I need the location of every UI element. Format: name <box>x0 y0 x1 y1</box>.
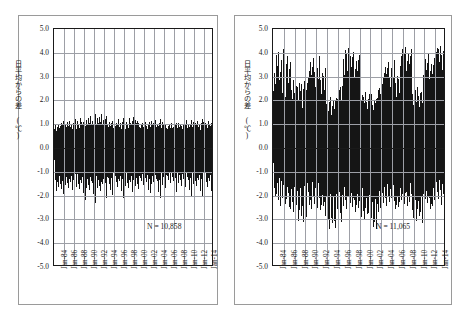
x-axis-tick-label: Jan-02 <box>151 250 159 269</box>
gridline-vertical <box>370 29 371 265</box>
x-axis-tick-label: Jan-08 <box>410 250 418 269</box>
gridline-horizontal <box>54 100 212 101</box>
bar <box>444 148 445 164</box>
gridline-vertical <box>316 29 317 265</box>
x-axis-tick-label: Jan-98 <box>356 250 364 269</box>
bar <box>212 130 213 148</box>
x-axis-tick-label: Jan-12 <box>201 250 209 269</box>
plot-area-left <box>53 28 213 266</box>
bar <box>444 148 445 202</box>
gridline-vertical <box>184 29 185 265</box>
bar <box>212 118 213 148</box>
x-axis-tick-label: Jan-94 <box>111 250 119 269</box>
x-axis-tick-label: Jan-04 <box>388 250 396 269</box>
gridline-vertical <box>144 29 145 265</box>
bar <box>213 148 214 198</box>
x-axis-tick-label: Jan-96 <box>121 250 129 269</box>
x-axis-tick-label: Jan-10 <box>421 250 429 269</box>
bar <box>444 50 445 148</box>
y-axis-title-left: 日平均からの差 (℃) <box>8 60 22 140</box>
x-axis-tick-label: Jan-86 <box>291 250 299 269</box>
y-axis-tick-label: 1.0 <box>244 119 268 128</box>
gridline-horizontal <box>273 77 444 78</box>
gridline-horizontal <box>273 219 444 220</box>
y-axis-tick-label: 5.0 <box>244 24 268 33</box>
x-axis-tick-label: Jan-04 <box>161 250 169 269</box>
y-axis-tick-label: -5.0 <box>244 262 268 271</box>
gridline-vertical <box>305 29 306 265</box>
sample-size-annotation-left: N = 10,858 <box>147 222 181 231</box>
x-axis-tick-label: Jan-08 <box>181 250 189 269</box>
bar-series-right <box>273 29 444 265</box>
y-axis-tick-label: -3.0 <box>25 214 49 223</box>
gridline-vertical <box>338 29 339 265</box>
gridline-vertical <box>360 29 361 265</box>
x-axis-tick-label: Jan-92 <box>101 250 109 269</box>
gridline-vertical <box>414 29 415 265</box>
gridline-horizontal <box>273 53 444 54</box>
gridline-vertical <box>74 29 75 265</box>
figure-container: 日平均からの差 (℃) 5.04.03.02.01.00.0-1.0-2.0-3… <box>0 0 465 320</box>
x-axis-tick-label: Jan-86 <box>71 250 79 269</box>
gridline-horizontal <box>54 243 212 244</box>
y-axis-tick-label: -2.0 <box>25 190 49 199</box>
plot-area-right <box>272 28 445 266</box>
y-axis-tick-label: 2.0 <box>244 95 268 104</box>
gridline-vertical <box>424 29 425 265</box>
gridline-horizontal <box>54 196 212 197</box>
y-axis-tick-label: 4.0 <box>244 47 268 56</box>
gridline-vertical <box>327 29 328 265</box>
bar-series-left <box>54 29 212 265</box>
zero-line <box>273 148 444 149</box>
y-axis-tick-label: 4.0 <box>25 47 49 56</box>
gridline-horizontal <box>54 53 212 54</box>
gridline-horizontal <box>54 219 212 220</box>
zero-line <box>54 148 212 149</box>
x-axis-tick-label: Jan-92 <box>323 250 331 269</box>
gridline-vertical <box>435 29 436 265</box>
gridline-vertical <box>194 29 195 265</box>
gridline-horizontal <box>54 172 212 173</box>
x-axis-tick-label: Jan-12 <box>431 250 439 269</box>
x-axis-tick-label: Jan-84 <box>61 250 69 269</box>
gridline-vertical <box>94 29 95 265</box>
gridline-horizontal <box>273 124 444 125</box>
x-axis-tick-label: Jan-90 <box>91 250 99 269</box>
gridline-vertical <box>124 29 125 265</box>
gridline-horizontal <box>54 77 212 78</box>
gridline-vertical <box>64 29 65 265</box>
x-axis-tick-label: Jan-10 <box>191 250 199 269</box>
sample-size-annotation-right: N = 11,065 <box>376 222 410 231</box>
y-axis-tick-label: 1.0 <box>25 119 49 128</box>
bar <box>212 148 213 159</box>
y-axis-tick-label: -4.0 <box>25 238 49 247</box>
gridline-horizontal <box>273 196 444 197</box>
y-axis-tick-label: 0.0 <box>25 143 49 152</box>
gridline-vertical <box>349 29 350 265</box>
x-axis-tick-label: Jan-90 <box>312 250 320 269</box>
y-axis-tick-label: 3.0 <box>244 71 268 80</box>
gridline-horizontal <box>273 100 444 101</box>
x-axis-tick-label: Jan-00 <box>141 250 149 269</box>
gridline-horizontal <box>54 124 212 125</box>
gridline-vertical <box>84 29 85 265</box>
x-axis-tick-label: Jan-14 <box>211 250 219 269</box>
y-axis-tick-label: 0.0 <box>244 143 268 152</box>
y-axis-tick-label: -4.0 <box>244 238 268 247</box>
x-axis-tick-label: Jan-96 <box>345 250 353 269</box>
x-axis-tick-label: Jan-06 <box>171 250 179 269</box>
gridline-vertical <box>104 29 105 265</box>
gridline-horizontal <box>273 172 444 173</box>
gridline-vertical <box>295 29 296 265</box>
x-axis-tick-label: Jan-88 <box>81 250 89 269</box>
x-axis-tick-label: Jan-84 <box>280 250 288 269</box>
x-axis-tick-label: Jan-14 <box>442 250 450 269</box>
x-axis-tick-label: Jan-00 <box>367 250 375 269</box>
y-axis-tick-label: -3.0 <box>244 214 268 223</box>
x-axis-tick-label: Jan-02 <box>377 250 385 269</box>
x-axis-tick-label: Jan-98 <box>131 250 139 269</box>
x-axis-tick-label: Jan-94 <box>334 250 342 269</box>
gridline-vertical <box>204 29 205 265</box>
gridline-vertical <box>134 29 135 265</box>
gridline-horizontal <box>273 243 444 244</box>
